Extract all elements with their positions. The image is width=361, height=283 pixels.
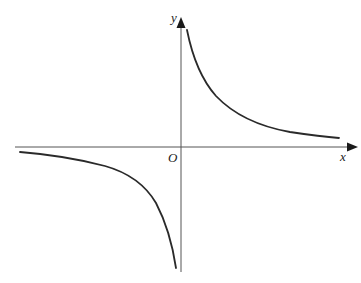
- x-axis-arrow-icon: [347, 143, 358, 152]
- x-axis-label: x: [340, 150, 346, 163]
- y-axis-label: y: [171, 11, 177, 24]
- y-axis-arrow-icon: [177, 17, 186, 28]
- origin-label: O: [168, 151, 177, 164]
- function-graph: y O x: [0, 0, 361, 283]
- curve-branch-lower-left: [20, 152, 176, 268]
- curve-branch-upper-right: [187, 30, 339, 138]
